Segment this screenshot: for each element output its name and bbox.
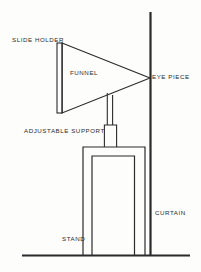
funnel-triangle xyxy=(62,43,150,113)
label-slide-holder: SLIDE HOLDER xyxy=(12,36,64,44)
diagram-canvas: SLIDE HOLDER FUNNEL EYE PIECE ADJUSTABLE… xyxy=(0,0,201,272)
label-eye-piece: EYE PIECE xyxy=(152,73,190,81)
slide-holder-body xyxy=(57,43,62,113)
label-stand: STAND xyxy=(62,235,85,243)
support-collar xyxy=(104,125,116,147)
label-adjustable-support: ADJUSTABLE SUPPORT xyxy=(24,127,105,135)
stand-inner-box xyxy=(92,156,135,255)
label-curtain: CURTAIN xyxy=(155,209,186,217)
label-funnel: FUNNEL xyxy=(70,69,98,77)
